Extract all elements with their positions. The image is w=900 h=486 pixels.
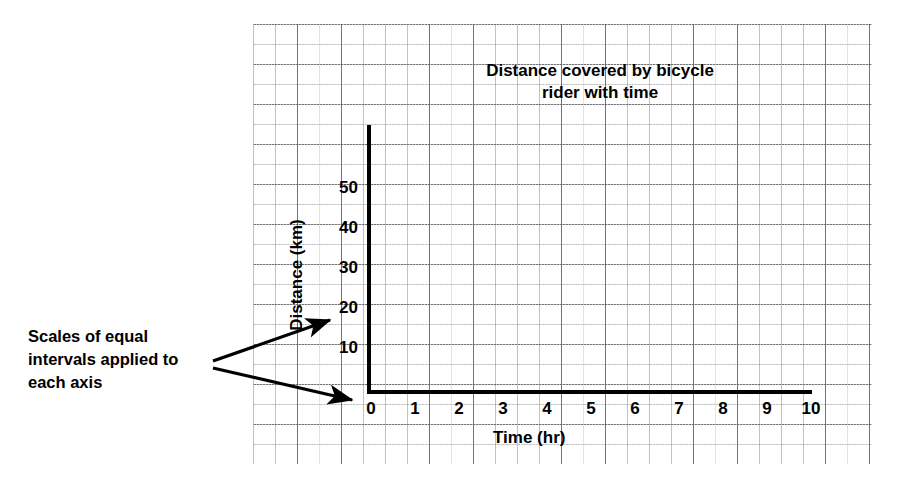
y-axis-title: Distance (km)	[287, 219, 307, 330]
plot-area: 0 1 2 3 4 5 6 7 8 9 10 10 20 30 40 50	[371, 390, 812, 391]
x-tick-label-9: 9	[752, 399, 782, 419]
x-tick-label-1: 1	[400, 399, 430, 419]
x-tick-label-4: 4	[532, 399, 562, 419]
annotation-line-3: each axis	[28, 371, 243, 394]
chart-title: Distance covered by bicycle rider with t…	[440, 60, 760, 104]
annotation-line-2: intervals applied to	[28, 348, 243, 371]
chart-title-line-2: rider with time	[440, 82, 760, 104]
x-tick-label-6: 6	[620, 399, 650, 419]
y-tick-label-40: 40	[324, 218, 358, 238]
y-tick-label-30: 30	[324, 258, 358, 278]
x-tick-label-3: 3	[488, 399, 518, 419]
x-tick-label-2: 2	[444, 399, 474, 419]
x-axis-line	[371, 390, 812, 394]
annotation-line-1: Scales of equal	[28, 325, 243, 348]
x-axis-title: Time (hr)	[493, 428, 565, 448]
x-tick-label-0: 0	[356, 399, 386, 419]
annotation-text: Scales of equal intervals applied to eac…	[28, 325, 243, 394]
x-tick-label-10: 10	[796, 399, 826, 419]
y-tick-label-10: 10	[324, 338, 358, 358]
y-tick-label-50: 50	[324, 178, 358, 198]
chart-title-line-1: Distance covered by bicycle	[440, 60, 760, 82]
y-tick-label-20: 20	[324, 298, 358, 318]
x-tick-label-7: 7	[664, 399, 694, 419]
x-tick-label-8: 8	[708, 399, 738, 419]
y-axis-line	[367, 125, 371, 394]
x-tick-label-5: 5	[576, 399, 606, 419]
